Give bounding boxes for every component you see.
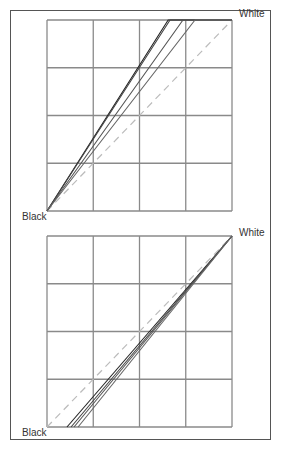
black-label-bottom: Black <box>22 427 46 438</box>
black-label-top: Black <box>22 211 46 222</box>
chart-canvas <box>0 0 282 452</box>
white-label-bottom: White <box>239 227 265 238</box>
white-label-top: White <box>239 8 265 19</box>
